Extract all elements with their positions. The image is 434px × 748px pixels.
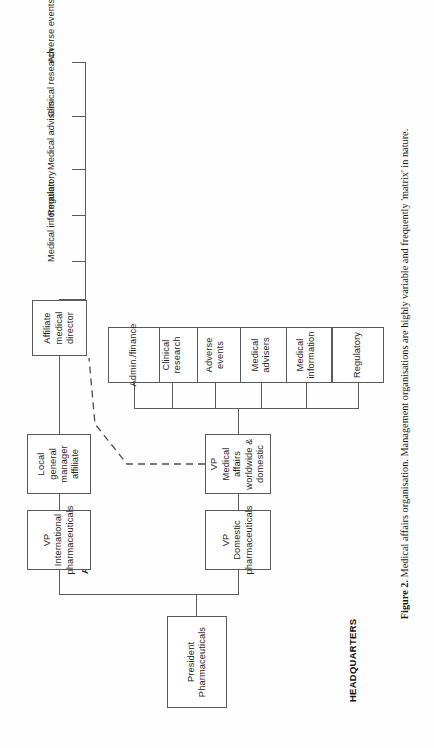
figure-number: Figure 2. [399,580,410,619]
org-chart: HEADQUARTERS AFFILIATE President Pharmac… [17,24,417,724]
org-chart-rotated-container: HEADQUARTERS AFFILIATE President Pharmac… [17,24,417,724]
figure-caption-text: Medical affairs organisation. Management… [399,129,410,578]
figure-caption: Figure 2. Medical affairs organisation. … [399,14,411,734]
figure-page: HEADQUARTERS AFFILIATE President Pharmac… [0,0,434,748]
dashed-matrix-link [17,24,417,724]
